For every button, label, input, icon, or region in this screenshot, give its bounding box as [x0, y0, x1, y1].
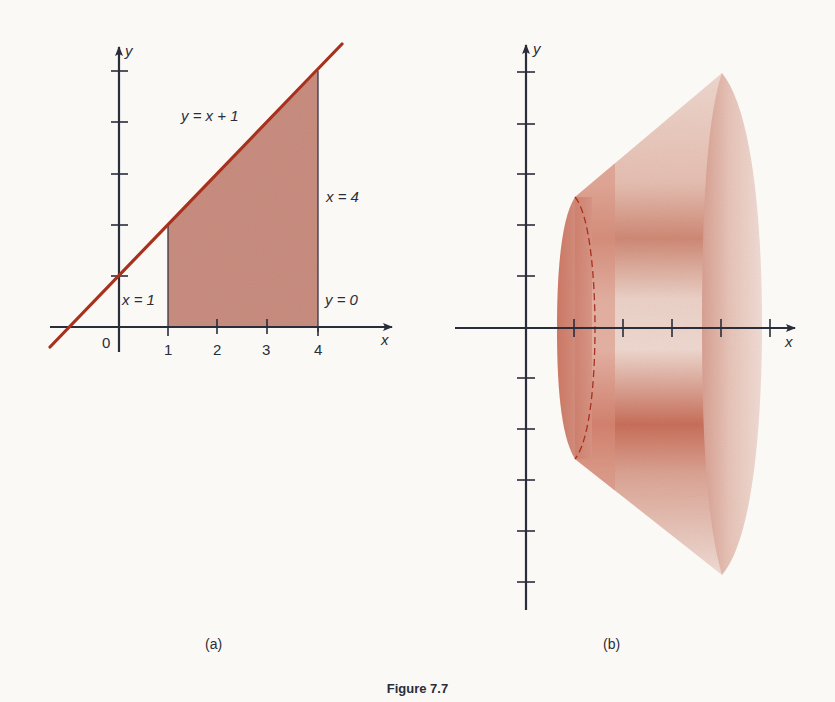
origin-label: 0 [102, 334, 110, 351]
annotation-x-equals-1: x = 1 [121, 291, 155, 308]
figure-7-7: y x 0 1 2 3 4 y = x + 1 x = 1 x = 4 y = … [0, 0, 835, 702]
x-tick-label-3: 3 [262, 341, 270, 358]
caption-a: (a) [205, 636, 222, 652]
x-tick-label-2: 2 [213, 341, 221, 358]
panel-a: y x 0 1 2 3 4 y = x + 1 x = 1 x = 4 y = … [50, 42, 392, 358]
annotation-y-equals-0: y = 0 [324, 291, 359, 308]
panel-b: y x [455, 40, 795, 610]
x-tick-label-4: 4 [314, 341, 322, 358]
x-axis-label-b: x [784, 333, 793, 350]
y-axis-label-a: y [124, 42, 134, 59]
annotation-x-equals-4: x = 4 [325, 188, 359, 205]
large-end-face [702, 73, 762, 575]
caption-b: (b) [603, 636, 620, 652]
figure-canvas: y x 0 1 2 3 4 y = x + 1 x = 1 x = 4 y = … [0, 0, 835, 702]
figure-title: Figure 7.7 [0, 681, 835, 696]
annotation-line-equation: y = x + 1 [180, 107, 239, 124]
x-tick-label-1: 1 [164, 341, 172, 358]
x-axis-label-a: x [380, 331, 389, 348]
y-axis-label-b: y [532, 40, 542, 57]
solid-of-revolution [557, 60, 762, 590]
